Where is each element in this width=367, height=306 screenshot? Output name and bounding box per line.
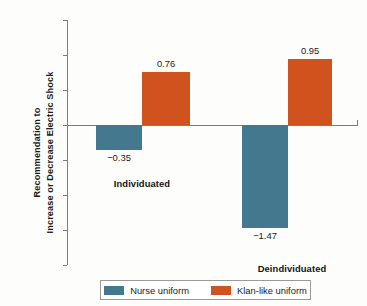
bar-klan-like-uniform-deindividuated bbox=[288, 59, 332, 126]
y-axis-title: Recommendation to Increase or Decrease E… bbox=[31, 28, 56, 278]
y-axis-line bbox=[67, 20, 68, 265]
plot-area: 1.510.50−0.5−1−1.5−2 −0.350.76−1.470.95 … bbox=[67, 20, 358, 265]
x-axis-end-tick bbox=[357, 120, 358, 126]
bar-value-label: −1.47 bbox=[228, 230, 302, 241]
bar-value-label: −0.35 bbox=[82, 152, 156, 163]
legend-swatch-klan-like-uniform bbox=[211, 286, 231, 295]
group-label-individuated: Individuated bbox=[77, 178, 207, 189]
bar-klan-like-uniform-individuated bbox=[142, 72, 190, 125]
y-tick-mark bbox=[63, 55, 67, 56]
y-tick-mark bbox=[63, 160, 67, 161]
legend-label-klan-like-uniform: Klan-like uniform bbox=[237, 285, 307, 296]
y-tick-mark bbox=[63, 90, 67, 91]
y-axis-title-line2: Increase or Decrease Electric Shock bbox=[43, 28, 56, 278]
y-tick-mark bbox=[63, 265, 67, 266]
y-tick-mark bbox=[63, 20, 67, 21]
bar-value-label: 0.76 bbox=[128, 58, 204, 69]
bar-chart: Recommendation to Increase or Decrease E… bbox=[0, 0, 367, 306]
legend-item-nurse-uniform: Nurse uniform bbox=[104, 285, 189, 296]
bar-value-label: 0.95 bbox=[274, 45, 346, 56]
bar-nurse-uniform-individuated bbox=[96, 125, 142, 150]
y-tick-mark bbox=[63, 230, 67, 231]
y-axis-title-line1: Recommendation to bbox=[31, 28, 44, 278]
y-tick-mark bbox=[63, 195, 67, 196]
legend-swatch-nurse-uniform bbox=[104, 286, 124, 295]
legend-label-nurse-uniform: Nurse uniform bbox=[130, 285, 189, 296]
group-label-deindividuated: Deindividuated bbox=[217, 263, 367, 274]
bar-nurse-uniform-deindividuated bbox=[242, 125, 288, 228]
legend-item-klan-like-uniform: Klan-like uniform bbox=[211, 285, 307, 296]
y-tick-mark bbox=[63, 125, 67, 126]
chart-legend: Nurse uniform Klan-like uniform bbox=[100, 280, 311, 300]
